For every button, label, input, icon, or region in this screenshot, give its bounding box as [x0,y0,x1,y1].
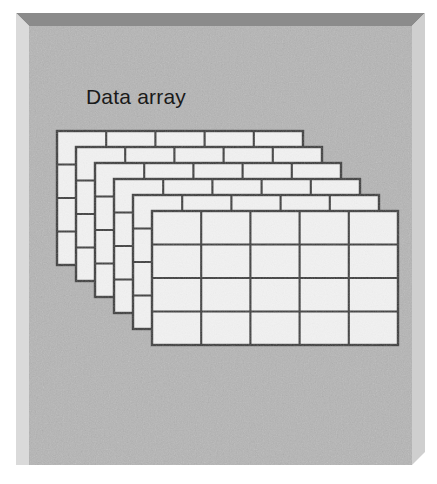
panel-bevel-right [412,13,425,465]
figure-root: Data array [0,0,437,484]
data-array-figure: Data array [0,0,437,484]
array-slice-6 [152,211,398,345]
page-title: Data array [86,85,186,108]
panel-bevel-top [16,13,425,26]
panel-bevel-left [16,13,29,465]
